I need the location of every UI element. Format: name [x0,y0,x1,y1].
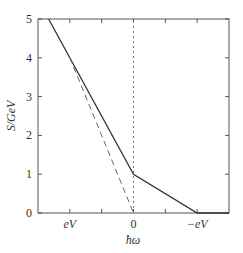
tick-labels: eV0−eV012345 [26,12,209,231]
data-series [49,19,229,213]
y-tick-label: 0 [26,206,32,220]
series-dashed-line [70,58,134,213]
chart: eV0−eV012345 ħω S/GeV [0,0,243,253]
series-solid-line [49,19,229,213]
plot-border [38,19,229,213]
y-tick-label: 5 [26,12,32,26]
x-tick-label: −eV [187,217,209,231]
y-tick-label: 4 [26,51,32,65]
x-tick-label: 0 [131,217,137,231]
plot-frame [38,19,229,213]
y-tick-label: 3 [26,90,32,104]
y-tick-label: 1 [26,167,32,181]
x-tick-label: eV [64,217,78,231]
y-axis-label: S/GeV [4,99,18,131]
x-axis-label: ħω [126,233,140,247]
axis-ticks [38,19,229,213]
y-tick-label: 2 [26,128,32,142]
